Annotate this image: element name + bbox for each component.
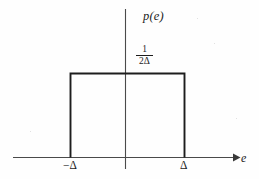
x-tick-label-negative-delta: −Δ	[63, 160, 77, 172]
plateau-height-label: 1 2Δ	[136, 45, 153, 67]
scan-speckle	[30, 131, 31, 132]
scan-speckle	[197, 18, 198, 19]
figure-container: p(e) e 1 2Δ −Δ Δ	[0, 0, 259, 179]
scan-speckle	[214, 43, 215, 44]
x-axis-arrowhead	[233, 154, 241, 162]
scan-speckle	[236, 118, 237, 119]
x-axis-label: e	[241, 152, 246, 164]
plateau-height-numerator: 1	[140, 45, 149, 55]
x-tick-label-positive-delta: Δ	[180, 160, 187, 172]
uniform-density-curve	[71, 74, 185, 158]
plateau-height-denominator: 2Δ	[137, 57, 152, 67]
plot-canvas	[0, 0, 259, 179]
y-axis-label: p(e)	[143, 10, 164, 23]
